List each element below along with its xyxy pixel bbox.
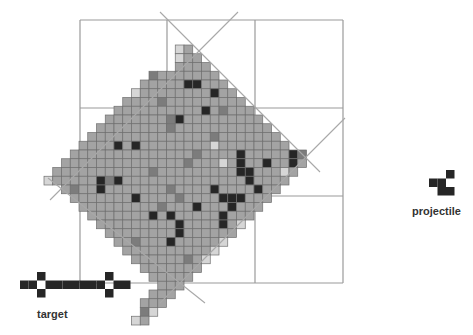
target-shape — [20, 272, 131, 298]
automaton-figure — [0, 0, 473, 335]
projectile-label: projectile — [412, 205, 461, 217]
target-label: target — [37, 308, 68, 320]
projectile-shape — [429, 170, 455, 196]
